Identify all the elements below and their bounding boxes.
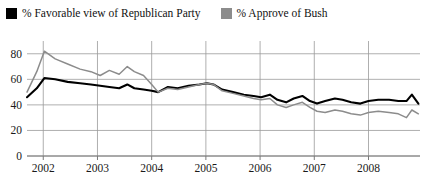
x-tick-label: 2003 [86, 162, 109, 174]
x-tick-label: 2007 [303, 162, 326, 174]
y-tick-label: 0 [16, 150, 22, 162]
x-tick-label: 2002 [32, 162, 55, 174]
y-tick-label: 20 [11, 124, 23, 136]
y-tick-label: 40 [11, 99, 23, 111]
gridlines [27, 41, 420, 156]
x-tick-label: 2004 [140, 162, 163, 174]
poll-trend-chart: % Favorable view of Republican Party % A… [0, 0, 425, 179]
y-tick-label: 60 [11, 73, 23, 85]
x-axis-tick-labels: 2002200320042005200620072008 [32, 162, 380, 174]
x-tick-label: 2006 [249, 162, 272, 174]
y-tick-label: 80 [11, 48, 23, 60]
x-tick-label: 2008 [357, 162, 380, 174]
chart-plot-area: 020406080 2002200320042005200620072008 [0, 0, 425, 179]
x-tick-label: 2005 [194, 162, 217, 174]
axis-lines [27, 156, 420, 160]
data-series [27, 51, 418, 117]
y-axis-tick-labels: 020406080 [11, 48, 23, 162]
